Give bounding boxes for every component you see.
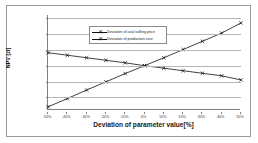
x-tick-label: -10% xyxy=(114,115,134,119)
x-tick-label: 50% xyxy=(230,115,250,119)
x-axis-title: Deviation of parameter value[%] xyxy=(47,121,240,128)
x-tick-mark xyxy=(124,112,125,114)
y-gridline xyxy=(48,82,241,83)
x-tick-label: 0% xyxy=(134,115,154,119)
x-tick-label: -20% xyxy=(95,115,115,119)
x-tick-mark xyxy=(105,112,106,114)
y-tick-mark xyxy=(46,34,48,35)
x-tick-label: 40% xyxy=(211,115,231,119)
x-tick-mark xyxy=(144,112,145,114)
y-tick-mark xyxy=(46,66,48,67)
x-tick-label: -40% xyxy=(56,115,76,119)
legend-item: ✕ Deviation of coal selling price xyxy=(92,29,164,36)
x-tick-label: -30% xyxy=(76,115,96,119)
data-point-marker xyxy=(46,105,49,108)
x-tick-mark xyxy=(86,112,87,114)
legend-marker-x-icon: ✕ xyxy=(92,29,107,36)
chart-legend: ✕ Deviation of coal selling price ✕ Devi… xyxy=(89,26,167,44)
x-tick-mark xyxy=(221,112,222,114)
x-tick-mark xyxy=(182,112,183,114)
data-point-marker xyxy=(124,72,127,75)
legend-label: Deviation of coal selling price xyxy=(107,29,155,36)
x-tick-label: -50% xyxy=(37,115,57,119)
x-tick-label: 20% xyxy=(172,115,192,119)
data-point-marker xyxy=(201,40,204,43)
y-axis-title: NPV [zł] xyxy=(5,35,11,81)
chart-figure: 30 000 00025 000 00020 000 00015 000 000… xyxy=(0,0,258,143)
x-tick-mark xyxy=(163,112,164,114)
x-tick-label: 30% xyxy=(191,115,211,119)
y-tick-mark xyxy=(46,18,48,19)
x-tick-mark xyxy=(201,112,202,114)
x-axis-tick-labels: -50%-40%-30%-20%-10%0%10%20%30%40%50% xyxy=(47,112,240,120)
y-tick-mark xyxy=(46,50,48,51)
x-tick-label: 10% xyxy=(153,115,173,119)
x-tick-mark xyxy=(66,112,67,114)
y-gridline xyxy=(48,97,241,98)
data-point-marker xyxy=(85,88,88,91)
y-gridline xyxy=(48,18,241,19)
legend-label: Deviation of production cost xyxy=(107,36,153,43)
data-point-marker xyxy=(162,56,165,59)
x-tick-mark xyxy=(47,112,48,114)
y-tick-mark xyxy=(46,97,48,98)
x-tick-mark xyxy=(240,112,241,114)
legend-marker-x-icon: ✕ xyxy=(92,36,107,43)
y-tick-mark xyxy=(46,82,48,83)
y-gridline xyxy=(48,50,241,51)
legend-item: ✕ Deviation of production cost xyxy=(92,36,164,43)
y-gridline xyxy=(48,66,241,67)
